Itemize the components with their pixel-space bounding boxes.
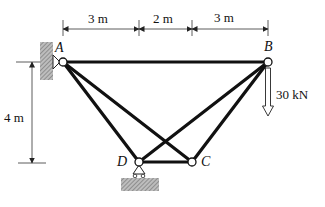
node-label-b: B (264, 40, 273, 54)
joint-d (135, 158, 143, 166)
node-label-c: C (201, 155, 210, 169)
dim-label-dc: 2 m (153, 12, 173, 25)
node-label-a: A (55, 41, 64, 55)
truss-members (63, 62, 268, 162)
joint-a (59, 58, 67, 66)
dim-label-ad: 3 m (88, 12, 108, 25)
truss-diagram (0, 0, 325, 207)
load-arrow-down-icon (263, 68, 274, 116)
dim-label-cb: 3 m (214, 11, 234, 24)
dim-label-height: 4 m (4, 111, 24, 124)
joints (59, 58, 272, 166)
joint-b (264, 58, 272, 66)
node-label-d: D (117, 155, 127, 169)
joint-c (188, 158, 196, 166)
load-label: 30 kN (276, 88, 308, 101)
